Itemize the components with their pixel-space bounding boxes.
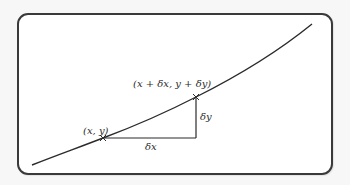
start-point-label: (x, y)	[83, 126, 108, 136]
delta-y-label: δy	[200, 112, 212, 122]
end-point-label: (x + δx, y + δy)	[133, 79, 211, 89]
curve	[32, 24, 312, 165]
diagram-plot	[0, 0, 350, 185]
diagram-canvas: (x + δx, y + δy) (x, y) δy δx	[0, 0, 350, 185]
delta-x-label: δx	[145, 142, 157, 152]
